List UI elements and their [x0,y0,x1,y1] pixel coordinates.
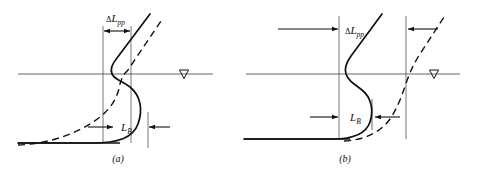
panel-caption-a: (a) [112,153,124,165]
dlpp-sub-glyph-b: pp [356,30,365,39]
dlpp-main-glyph-b: L [349,24,356,36]
dlpp-sub-glyph-a: pp [117,18,126,27]
lb-main-glyph-b: L [349,111,356,123]
hull-profile-comparison-figure: ΔLpp LB (a) ΔLpp LB (b) [0,0,478,171]
lb-sub-glyph-b: B [356,117,361,126]
panel-caption-b: (b) [339,153,351,165]
lb-sub-glyph-a: B [127,127,132,136]
lb-main-glyph-a: L [120,121,127,133]
dlpp-main-glyph-a: L [110,12,117,24]
